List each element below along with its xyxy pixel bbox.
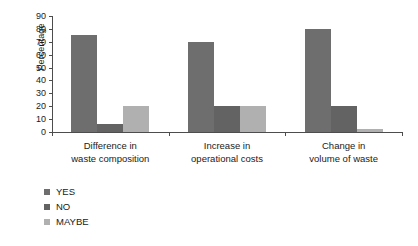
- y-tick-label: 30: [18, 89, 46, 98]
- legend-label: NO: [56, 202, 70, 212]
- x-tick-mark: [169, 132, 170, 136]
- legend-swatch-icon: [44, 189, 50, 195]
- x-category-label-line: volume of waste: [284, 153, 404, 166]
- x-category-label: Change involume of waste: [284, 140, 404, 165]
- x-category-label: Difference inwaste composition: [50, 140, 170, 165]
- y-tick-mark: [49, 16, 53, 17]
- legend-label: MAYBE: [56, 217, 89, 227]
- x-category-label-line: operational costs: [167, 153, 287, 166]
- chart-container: Percentage 9080706050403020100 Differenc…: [0, 0, 418, 246]
- chart-legend: YESNOMAYBE: [44, 184, 89, 229]
- y-tick-mark: [49, 55, 53, 56]
- bar-no-group-2: [214, 106, 240, 132]
- y-tick-label: 0: [18, 128, 46, 137]
- bar-yes-group-3: [305, 29, 331, 132]
- y-tick-label: 10: [18, 115, 46, 124]
- y-tick-mark: [49, 42, 53, 43]
- y-tick-label: 70: [18, 38, 46, 47]
- bar-maybe-group-3: [357, 129, 383, 132]
- y-tick-label: 60: [18, 51, 46, 60]
- y-tick-label: 20: [18, 102, 46, 111]
- y-axis-line: [52, 16, 53, 132]
- plot-area: 9080706050403020100: [52, 16, 402, 132]
- x-axis-line: [52, 132, 402, 133]
- y-tick-label: 50: [18, 64, 46, 73]
- bar-no-group-3: [331, 106, 357, 132]
- legend-swatch-icon: [44, 204, 50, 210]
- legend-item-no[interactable]: NO: [44, 199, 89, 214]
- bar-maybe-group-2: [240, 106, 266, 132]
- x-tick-mark: [402, 132, 403, 136]
- x-category-label-line: Increase in: [167, 140, 287, 153]
- y-tick-mark: [49, 80, 53, 81]
- bar-maybe-group-1: [123, 106, 149, 132]
- legend-label: YES: [56, 187, 75, 197]
- y-tick-mark: [49, 29, 53, 30]
- bar-yes-group-2: [188, 42, 214, 132]
- y-tick-label: 90: [18, 12, 46, 21]
- y-tick-mark: [49, 119, 53, 120]
- x-category-label-line: Change in: [284, 140, 404, 153]
- y-tick-mark: [49, 68, 53, 69]
- bar-no-group-1: [97, 124, 123, 132]
- legend-item-maybe[interactable]: MAYBE: [44, 214, 89, 229]
- y-tick-mark: [49, 106, 53, 107]
- x-category-label-line: waste composition: [50, 153, 170, 166]
- x-category-label: Increase inoperational costs: [167, 140, 287, 165]
- bar-yes-group-1: [71, 35, 97, 132]
- y-tick-mark: [49, 93, 53, 94]
- legend-swatch-icon: [44, 219, 50, 225]
- y-tick-label: 40: [18, 76, 46, 85]
- x-tick-mark: [52, 132, 53, 136]
- y-tick-label: 80: [18, 25, 46, 34]
- x-tick-mark: [285, 132, 286, 136]
- x-category-label-line: Difference in: [50, 140, 170, 153]
- legend-item-yes[interactable]: YES: [44, 184, 89, 199]
